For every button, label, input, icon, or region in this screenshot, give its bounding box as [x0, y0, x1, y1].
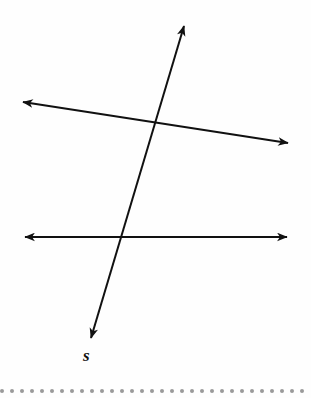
- rule-dot: [70, 389, 74, 393]
- rule-dot: [190, 389, 194, 393]
- rule-dot: [90, 389, 94, 393]
- rule-dot: [260, 389, 264, 393]
- rule-dot: [200, 389, 204, 393]
- rule-dot: [290, 389, 294, 393]
- rule-dot: [120, 389, 124, 393]
- rule-dot: [140, 389, 144, 393]
- rule-dot: [250, 389, 254, 393]
- bottom-dot-rule: [0, 386, 311, 396]
- rule-dot: [100, 389, 104, 393]
- rule-dot: [30, 389, 34, 393]
- rule-dot: [60, 389, 64, 393]
- rule-dot: [80, 389, 84, 393]
- rule-dot: [220, 389, 224, 393]
- rule-dot: [230, 389, 234, 393]
- rule-dot: [280, 389, 284, 393]
- transversal-label-s: s: [83, 347, 90, 364]
- rule-dot: [20, 389, 24, 393]
- rule-dot: [210, 389, 214, 393]
- transversal-line-s: [91, 26, 184, 338]
- geometry-figure: s: [0, 0, 311, 398]
- geometry-canvas: [0, 0, 311, 398]
- rule-dot: [110, 389, 114, 393]
- rule-dot: [270, 389, 274, 393]
- rule-dot: [240, 389, 244, 393]
- rule-dot: [0, 389, 4, 393]
- rule-dot: [10, 389, 14, 393]
- rule-dot: [170, 389, 174, 393]
- rule-dot: [300, 389, 304, 393]
- rule-dot: [150, 389, 154, 393]
- rule-dot: [130, 389, 134, 393]
- rule-dot: [50, 389, 54, 393]
- rule-dot: [40, 389, 44, 393]
- rule-dot: [180, 389, 184, 393]
- rule-dot: [160, 389, 164, 393]
- lines-group: [23, 26, 288, 338]
